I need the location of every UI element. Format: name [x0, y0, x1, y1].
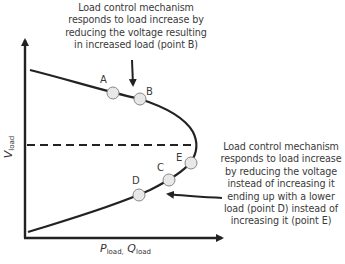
- annotation-right-line: increasing it (point E): [217, 215, 345, 227]
- y-axis-label: Vload: [2, 136, 16, 159]
- y-axis-subscript: load: [8, 136, 16, 151]
- point-e-marker: [185, 157, 197, 169]
- point-c-marker: [163, 174, 175, 186]
- annotation-right-line: load (point D) instead of: [217, 203, 345, 215]
- point-b-marker: [134, 93, 146, 105]
- point-d-label: D: [132, 175, 140, 186]
- annotation-right-line: ending up with a lower: [217, 191, 345, 203]
- point-b-label: B: [146, 86, 153, 97]
- point-a-marker: [107, 87, 119, 99]
- point-a-label: A: [100, 74, 107, 85]
- point-e-label: E: [176, 152, 182, 163]
- annotation-right-line: Load control mechanism: [217, 141, 345, 153]
- x-axis-subscript-p: load,: [107, 248, 124, 256]
- arrow-to-point-b: [132, 60, 133, 85]
- annotation-right-line: responds to load increase: [217, 153, 345, 165]
- annotation-top: Load control mechanism responds to load …: [62, 2, 210, 52]
- annotation-top-line: reducing the voltage resulting: [62, 27, 210, 39]
- annotation-right: Load control mechanism responds to load …: [217, 141, 345, 228]
- annotation-top-line: responds to load increase by: [62, 14, 210, 26]
- annotation-top-line: Load control mechanism: [62, 2, 210, 14]
- annotation-right-line: by reducing the voltage: [217, 166, 345, 178]
- point-c-label: C: [157, 162, 164, 173]
- x-axis-label: Pload, Qload: [100, 242, 151, 256]
- x-axis-symbol-p: P: [100, 242, 107, 255]
- x-axis-symbol-q: Q: [127, 242, 136, 255]
- arrow-to-point-d: [168, 194, 222, 198]
- x-axis-subscript-q: load: [136, 248, 151, 256]
- point-d-marker: [133, 189, 145, 201]
- annotation-right-line: instead of increasing it: [217, 178, 345, 190]
- y-axis-symbol-v: V: [2, 151, 15, 159]
- annotation-top-line: in increased load (point B): [62, 39, 210, 51]
